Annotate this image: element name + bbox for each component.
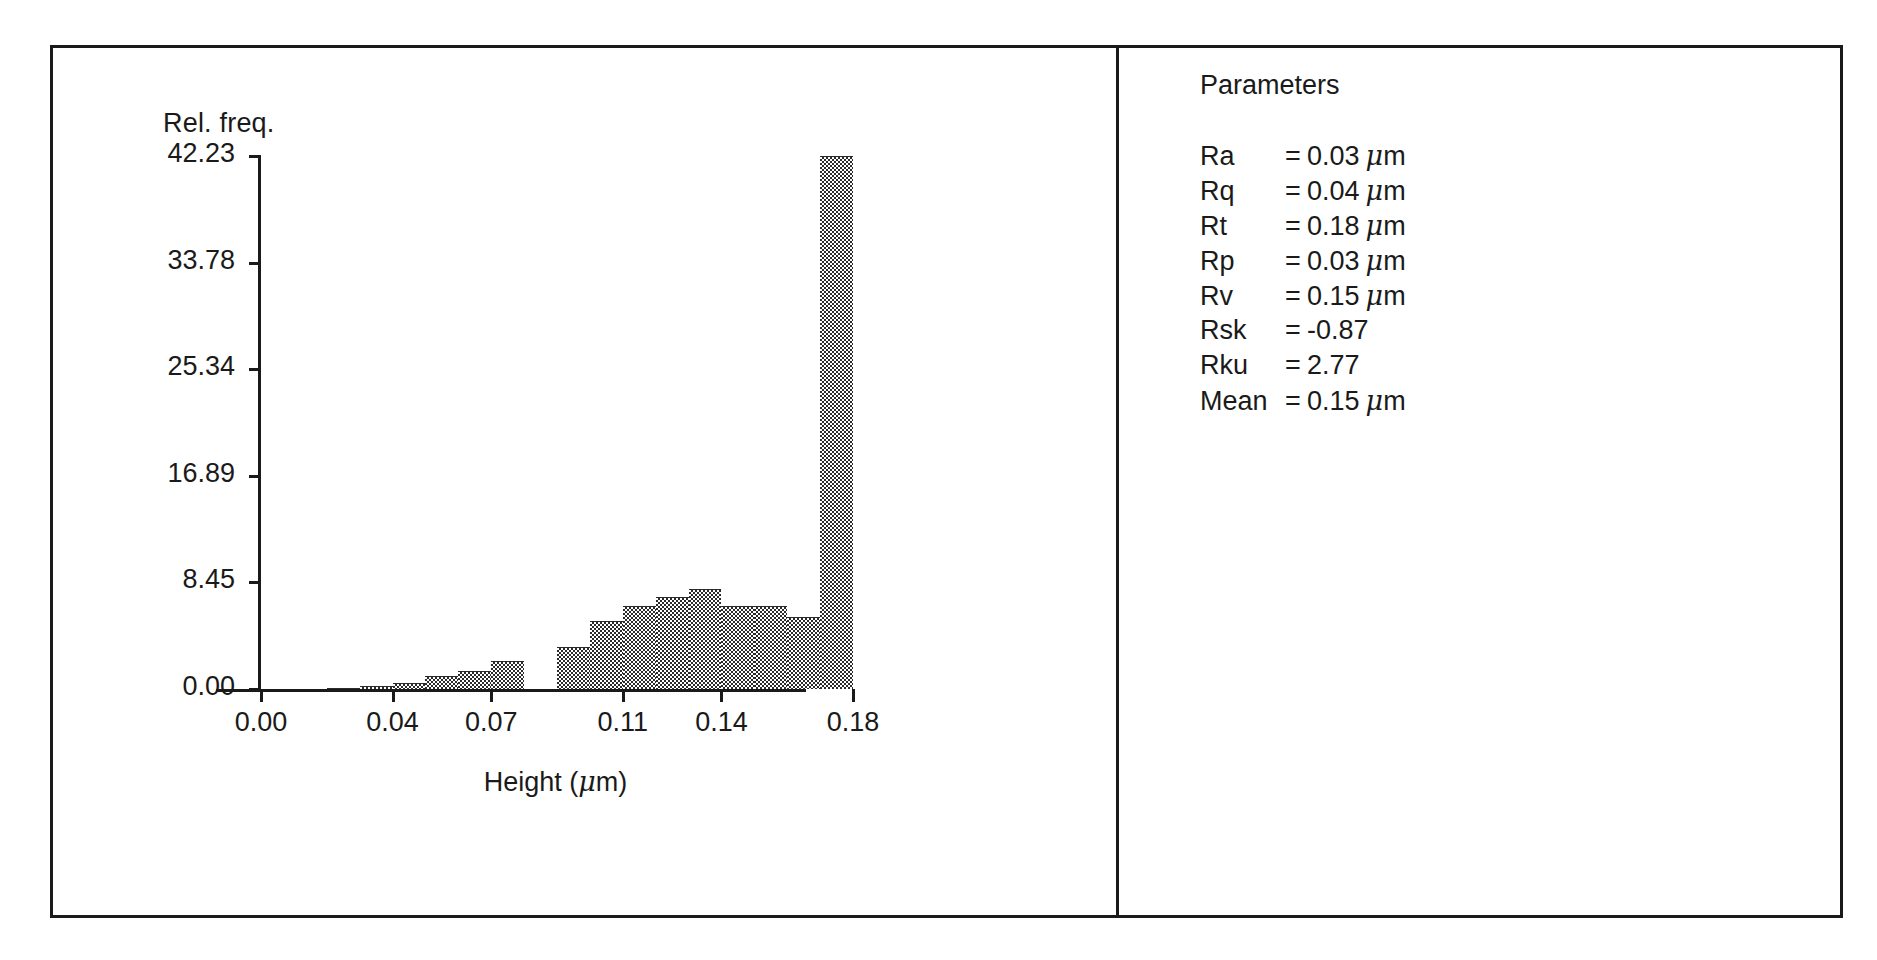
histogram-bar <box>327 688 360 689</box>
parameter-value: 0.18 <box>1307 211 1360 242</box>
x-axis-label-text: Height ( <box>484 767 579 797</box>
histogram-bar <box>820 156 853 689</box>
parameter-value: -0.87 <box>1307 315 1369 346</box>
parameter-equals: = <box>1285 315 1307 346</box>
parameter-equals: = <box>1285 281 1307 312</box>
parameters-list: Ra=0.03μmRq=0.04μmRt=0.18μmRp=0.03μmRv=0… <box>1200 140 1406 420</box>
histogram-bar <box>689 589 722 689</box>
parameter-value: 0.03 <box>1307 141 1360 172</box>
parameter-value: 0.15 <box>1307 281 1360 312</box>
x-axis-label: Height (μm) <box>258 766 853 798</box>
y-tick-mark <box>249 475 261 478</box>
histogram-bar <box>590 621 623 689</box>
y-tick-label: 8.45 <box>105 564 235 595</box>
histogram-bar <box>721 606 754 689</box>
parameter-value: 0.04 <box>1307 176 1360 207</box>
x-tick-label: 0.14 <box>666 707 776 738</box>
parameter-unit: μm <box>1366 385 1406 417</box>
x-tick-label: 0.00 <box>206 707 316 738</box>
parameter-value: 2.77 <box>1307 350 1360 381</box>
micro-symbol: μ <box>1366 280 1384 311</box>
parameter-name: Ra <box>1200 141 1285 172</box>
parameter-row: Rq=0.04μm <box>1200 175 1406 210</box>
y-tick-label: 16.89 <box>105 458 235 489</box>
parameter-row: Rt=0.18μm <box>1200 210 1406 245</box>
parameter-equals: = <box>1285 246 1307 277</box>
parameter-value: 0.15 <box>1307 386 1360 417</box>
parameter-row: Rv=0.15μm <box>1200 280 1406 315</box>
x-tick-label: 0.11 <box>568 707 678 738</box>
histogram-bar <box>754 606 787 689</box>
parameter-name: Rku <box>1200 350 1285 381</box>
parameter-unit: μm <box>1366 245 1406 277</box>
parameter-equals: = <box>1285 211 1307 242</box>
parameter-unit: μm <box>1366 280 1406 312</box>
outer-frame: Rel. freq. 0.008.4516.8925.3433.7842.23 … <box>50 45 1843 918</box>
parameter-unit: μm <box>1366 175 1406 207</box>
micro-symbol: μ <box>1366 175 1384 206</box>
histogram-panel: Rel. freq. 0.008.4516.8925.3433.7842.23 … <box>53 48 1116 915</box>
parameter-equals: = <box>1285 386 1307 417</box>
y-tick-mark <box>249 581 261 584</box>
parameter-row: Ra=0.03μm <box>1200 140 1406 175</box>
histogram-bar <box>656 597 689 689</box>
parameter-name: Rp <box>1200 246 1285 277</box>
x-tick-mark <box>392 689 395 702</box>
histogram-bar <box>557 647 590 689</box>
histogram-bar <box>623 606 656 689</box>
parameter-equals: = <box>1285 141 1307 172</box>
x-tick-mark <box>260 689 263 702</box>
x-axis-line <box>216 689 806 692</box>
x-tick-mark <box>622 689 625 702</box>
x-tick-mark <box>490 689 493 702</box>
parameter-row: Rku=2.77 <box>1200 350 1406 385</box>
parameter-name: Rt <box>1200 211 1285 242</box>
x-tick-mark <box>852 689 855 702</box>
micro-symbol: μ <box>1366 385 1384 416</box>
y-tick-mark <box>249 262 261 265</box>
parameters-title: Parameters <box>1200 70 1340 101</box>
histogram-bar <box>458 671 491 689</box>
y-tick-label: 33.78 <box>105 245 235 276</box>
histogram-bar <box>787 617 820 689</box>
histogram-bar <box>393 683 426 689</box>
x-tick-label: 0.07 <box>436 707 546 738</box>
parameter-row: Rp=0.03μm <box>1200 245 1406 280</box>
parameter-name: Rsk <box>1200 315 1285 346</box>
micro-symbol: μ <box>1366 210 1384 241</box>
y-tick-label: 42.23 <box>105 138 235 169</box>
parameter-unit: μm <box>1366 210 1406 242</box>
histogram-bar <box>360 686 393 689</box>
parameters-panel: Parameters Ra=0.03μmRq=0.04μmRt=0.18μmRp… <box>1119 48 1840 915</box>
histogram-bar <box>491 661 524 689</box>
y-tick-mark <box>249 155 261 158</box>
parameter-name: Mean <box>1200 386 1285 417</box>
parameter-equals: = <box>1285 350 1307 381</box>
parameter-name: Rq <box>1200 176 1285 207</box>
parameter-unit: μm <box>1366 140 1406 172</box>
micro-symbol: μ <box>1366 245 1384 276</box>
micro-symbol: μ <box>578 766 596 797</box>
parameter-value: 0.03 <box>1307 246 1360 277</box>
histogram-bar <box>425 676 458 689</box>
x-axis-label-unit: m) <box>596 767 627 797</box>
x-tick-label: 0.18 <box>798 707 908 738</box>
y-tick-label: 25.34 <box>105 351 235 382</box>
parameter-row: Mean=0.15μm <box>1200 385 1406 420</box>
histogram-bars <box>261 156 853 689</box>
y-tick-mark <box>249 368 261 371</box>
parameter-equals: = <box>1285 176 1307 207</box>
x-tick-label: 0.04 <box>338 707 448 738</box>
parameter-name: Rv <box>1200 281 1285 312</box>
x-tick-mark <box>720 689 723 702</box>
parameter-row: Rsk=-0.87 <box>1200 315 1406 350</box>
micro-symbol: μ <box>1366 140 1384 171</box>
y-tick-label: 0.00 <box>105 671 235 702</box>
